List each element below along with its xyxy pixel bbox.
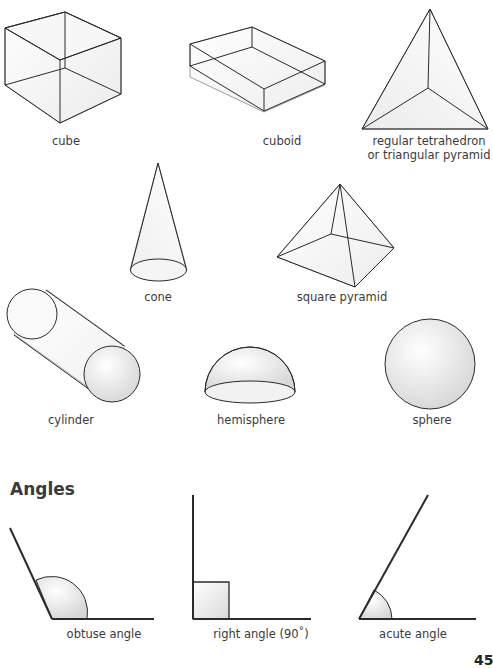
cone-shape <box>130 163 187 281</box>
right-angle-label: right angle (90˚) <box>213 627 309 641</box>
cube-shape <box>5 12 121 123</box>
hemisphere-shape <box>205 347 295 403</box>
sphere-label: sphere <box>412 413 451 427</box>
angles-heading: Angles <box>10 479 75 499</box>
right-angle-shape <box>193 495 311 619</box>
cube-label: cube <box>52 134 80 148</box>
tetrahedron-label-line2: or triangular pyramid <box>368 148 491 162</box>
tetrahedron-label-line1: regular tetrahedron <box>372 134 485 148</box>
cuboid-label: cuboid <box>263 134 301 148</box>
page-number: 45 <box>474 652 493 668</box>
hemisphere-label: hemisphere <box>217 413 285 427</box>
cuboid-shape <box>190 27 325 112</box>
square-pyramid-label: square pyramid <box>297 290 387 304</box>
obtuse-angle-shape <box>10 528 154 619</box>
cylinder-label: cylinder <box>48 413 94 427</box>
tetrahedron-shape <box>362 9 488 129</box>
obtuse-angle-label: obtuse angle <box>67 627 142 641</box>
acute-angle-label: acute angle <box>379 627 447 641</box>
square-pyramid-shape <box>277 184 394 287</box>
acute-angle-shape <box>359 495 476 619</box>
cylinder-shape <box>7 289 140 402</box>
sphere-shape <box>385 319 475 409</box>
cone-label: cone <box>144 290 172 304</box>
